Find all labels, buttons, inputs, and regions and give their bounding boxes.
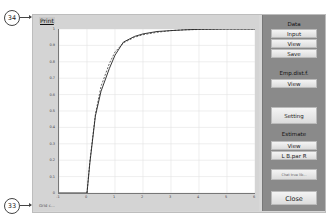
data-group-label: Data — [263, 21, 325, 27]
setting-button[interactable]: Setting — [271, 107, 317, 124]
grid-link[interactable]: Grid c... — [39, 203, 55, 208]
chart-true-lib-button[interactable]: Chat true lib... — [271, 169, 317, 180]
y-tick-label: 0.6 — [37, 93, 55, 97]
x-tick-label: 2 — [137, 195, 147, 199]
close-button[interactable]: Close — [271, 191, 317, 205]
data-view-button[interactable]: View — [271, 39, 317, 48]
x-tick-label: 3 — [165, 195, 175, 199]
y-tick-label: 0.4 — [37, 125, 55, 129]
x-tick-label: 1 — [109, 195, 119, 199]
estimate-lbpar-button[interactable]: L B.par R — [271, 151, 317, 160]
cdf-chart-svg — [59, 29, 255, 193]
y-tick-label: 0.3 — [37, 142, 55, 146]
y-tick-label: 0.9 — [37, 43, 55, 47]
callout-arrow-34 — [20, 17, 31, 18]
emp-dist-view-button[interactable]: View — [271, 79, 317, 88]
callout-33: 33 — [4, 198, 20, 214]
data-input-button[interactable]: Input — [271, 29, 317, 38]
plot-frame: Print 00.10.20.30.40.50.60.70.80.91 -101… — [33, 15, 259, 211]
x-tick-label: 5 — [221, 195, 231, 199]
y-tick-label: 0.5 — [37, 109, 55, 113]
print-link[interactable]: Print — [39, 17, 55, 24]
estimate-view-button[interactable]: View — [271, 141, 317, 150]
emp-dist-group-label: Emp.dist.f. — [263, 70, 325, 76]
y-tick-label: 0.8 — [37, 60, 55, 64]
estimate-group-label: Estimate — [263, 131, 325, 137]
y-tick-label: 0.7 — [37, 76, 55, 80]
x-tick-label: 6 — [249, 195, 259, 199]
side-panel: Data Input View Save Emp.dist.f. View Se… — [262, 15, 325, 211]
x-tick-label: 4 — [193, 195, 203, 199]
callout-34: 34 — [4, 10, 20, 26]
x-tick-label: 0 — [81, 195, 91, 199]
app-window: Print 00.10.20.30.40.50.60.70.80.91 -101… — [32, 14, 326, 213]
data-save-button[interactable]: Save — [271, 49, 317, 58]
y-tick-label: 0.1 — [37, 175, 55, 179]
cdf-plot — [58, 29, 255, 194]
y-tick-label: 0.2 — [37, 158, 55, 162]
callout-arrow-33 — [20, 205, 31, 206]
y-tick-label: 1 — [37, 27, 55, 31]
x-tick-label: -1 — [53, 195, 63, 199]
